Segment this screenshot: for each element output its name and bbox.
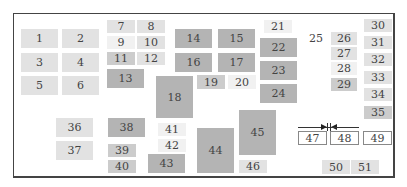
block-24: 24 — [260, 84, 297, 103]
block-44: 44 — [197, 128, 234, 173]
block-16: 16 — [175, 53, 212, 72]
block-6: 6 — [62, 76, 99, 95]
block-47: 47 — [298, 131, 327, 145]
block-4: 4 — [62, 53, 99, 72]
block-30: 30 — [364, 19, 392, 32]
block-19: 19 — [197, 75, 225, 89]
block-5: 5 — [21, 76, 58, 95]
block-18: 18 — [156, 76, 193, 118]
block-35: 35 — [364, 106, 392, 119]
block-21: 21 — [264, 20, 292, 33]
block-9: 9 — [107, 36, 135, 49]
block-1: 1 — [21, 29, 58, 48]
block-37: 37 — [56, 141, 93, 160]
block-39: 39 — [108, 144, 136, 157]
dimension-tick — [327, 123, 328, 131]
block-32: 32 — [364, 53, 392, 66]
block-42: 42 — [158, 139, 186, 152]
block-20: 20 — [228, 75, 256, 89]
block-29: 29 — [331, 78, 357, 91]
block-17: 17 — [218, 53, 255, 72]
block-8: 8 — [137, 20, 165, 33]
block-33: 33 — [364, 71, 392, 84]
block-43: 43 — [148, 154, 185, 173]
block-28: 28 — [331, 62, 357, 75]
block-22: 22 — [260, 38, 297, 57]
block-48: 48 — [330, 131, 359, 145]
block-51: 51 — [351, 160, 379, 174]
block-11: 11 — [107, 52, 135, 65]
block-38: 38 — [108, 118, 145, 137]
block-12: 12 — [137, 52, 165, 65]
block-26: 26 — [331, 32, 357, 45]
block-27: 27 — [331, 47, 357, 60]
dimension-line-right — [331, 127, 359, 128]
block-45: 45 — [239, 110, 276, 155]
block-36: 36 — [56, 118, 93, 137]
block-25: 25 — [303, 32, 329, 45]
block-2: 2 — [62, 29, 99, 48]
block-13: 13 — [107, 69, 144, 88]
block-7: 7 — [107, 20, 135, 33]
block-34: 34 — [364, 88, 392, 101]
block-10: 10 — [137, 36, 165, 49]
block-50: 50 — [322, 160, 350, 174]
block-49: 49 — [363, 131, 392, 145]
block-41: 41 — [158, 123, 186, 136]
block-23: 23 — [260, 61, 297, 80]
block-40: 40 — [108, 160, 136, 173]
block-14: 14 — [175, 29, 212, 48]
block-31: 31 — [364, 36, 392, 49]
block-46: 46 — [239, 160, 267, 173]
block-15: 15 — [218, 29, 255, 48]
block-3: 3 — [21, 53, 58, 72]
